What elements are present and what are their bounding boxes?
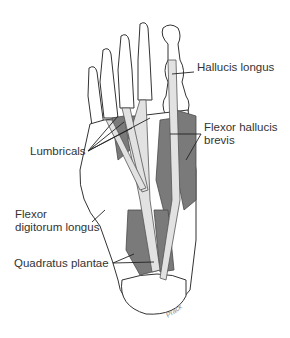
label-flexor-digitorum-longus-line2: digitorum longus — [15, 221, 99, 234]
label-flexor-hallucis-brevis-line1: Flexor hallucis — [204, 121, 278, 134]
anatomy-figure: Prack Hallucis longus Flexor hallucis br… — [0, 0, 290, 338]
foot-illustration: Prack — [0, 0, 290, 338]
label-lumbricals: Lumbricals — [30, 145, 86, 158]
label-hallucis-longus: Hallucis longus — [197, 61, 274, 74]
label-flexor-hallucis-brevis-line2: brevis — [204, 134, 235, 147]
label-flexor-digitorum-longus-line1: Flexor — [15, 208, 47, 221]
label-quadratus-plantae: Quadratus plantae — [14, 257, 109, 270]
